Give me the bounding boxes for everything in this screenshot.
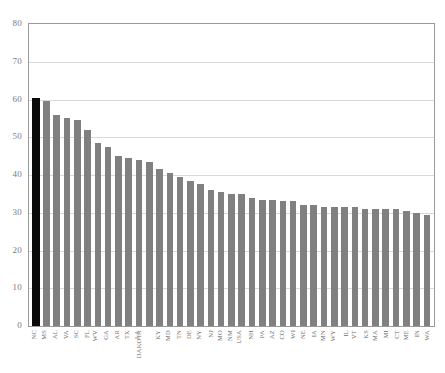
y-tick-label: 70 <box>13 56 22 66</box>
x-tick-label: WA <box>422 330 429 341</box>
bar-slot <box>216 24 226 326</box>
bar[interactable] <box>64 118 71 326</box>
x-tick-label: MO <box>216 330 223 341</box>
x-tick-label: TN <box>175 330 182 339</box>
bar[interactable] <box>74 120 81 326</box>
bar[interactable] <box>228 194 235 326</box>
bar[interactable] <box>424 215 431 326</box>
x-axis: NCMSALVASCFLWVGAARTXLADAKOTAKYMDTNDENYNJ… <box>28 328 435 373</box>
bar[interactable] <box>136 160 143 326</box>
bar-slot <box>247 24 257 326</box>
bar[interactable] <box>341 207 348 326</box>
x-tick-slot: NY <box>195 328 205 373</box>
x-tick-slot: SC <box>71 328 81 373</box>
bar[interactable] <box>352 207 359 326</box>
bar[interactable] <box>310 205 317 326</box>
bar[interactable] <box>331 207 338 326</box>
bar-slot <box>196 24 206 326</box>
bar-slot <box>154 24 164 326</box>
bar[interactable] <box>403 211 410 326</box>
bar[interactable] <box>280 201 287 326</box>
x-tick-label: AZ <box>268 330 275 339</box>
bar[interactable] <box>105 147 112 326</box>
bar-chart: 80706050403020100 NCMSALVASCFLWVGAARTXLA… <box>0 0 445 373</box>
x-tick-slot: IL <box>340 328 350 373</box>
y-tick-label: 60 <box>13 94 22 104</box>
bar[interactable] <box>156 169 163 326</box>
x-tick-label: SC <box>72 330 79 338</box>
bar[interactable] <box>321 207 328 326</box>
x-tick-slot: KS <box>361 328 371 373</box>
bar-slot <box>411 24 421 326</box>
x-tick-label: WY <box>329 330 336 341</box>
bar[interactable] <box>32 98 39 326</box>
x-tick-slot: TN <box>175 328 185 373</box>
bar[interactable] <box>249 198 256 326</box>
bar-slot <box>93 24 103 326</box>
bar-slot <box>206 24 216 326</box>
y-tick-label: 20 <box>13 245 22 255</box>
bar[interactable] <box>413 213 420 326</box>
x-tick-slot: ME <box>402 328 412 373</box>
bar[interactable] <box>146 162 153 326</box>
x-tick-label: NJ <box>207 330 214 338</box>
bar-slot <box>113 24 123 326</box>
bar[interactable] <box>218 192 225 326</box>
bar[interactable] <box>53 115 60 326</box>
x-tick-label: NY <box>196 330 203 340</box>
bar[interactable] <box>259 200 266 326</box>
bar-slot <box>360 24 370 326</box>
bar-slot <box>370 24 380 326</box>
bar[interactable] <box>362 209 369 326</box>
bar-slot <box>267 24 277 326</box>
bar-slot <box>257 24 267 326</box>
x-tick-label: WV <box>92 330 99 341</box>
bar[interactable] <box>382 209 389 326</box>
bar[interactable] <box>290 201 297 326</box>
bar-slot <box>144 24 154 326</box>
bar[interactable] <box>197 184 204 326</box>
x-tick-slot: MD <box>164 328 174 373</box>
x-tick-slot: MA <box>371 328 381 373</box>
bar[interactable] <box>187 181 194 326</box>
x-tick-slot: NH <box>247 328 257 373</box>
x-tick-label: CO <box>278 330 285 339</box>
bar-slot <box>82 24 92 326</box>
bar-slot <box>298 24 308 326</box>
x-tick-slot: TX <box>123 328 133 373</box>
bar[interactable] <box>95 143 102 326</box>
bar[interactable] <box>125 158 132 326</box>
bar[interactable] <box>393 209 400 326</box>
x-tick-label: MD <box>164 330 171 341</box>
x-tick-slot: NC <box>30 328 40 373</box>
bar[interactable] <box>115 156 122 326</box>
x-tick-label: MN <box>319 330 326 341</box>
x-tick-label: NM <box>226 330 233 341</box>
bar-slot <box>350 24 360 326</box>
bar-slot <box>422 24 432 326</box>
y-tick-label: 0 <box>17 320 22 330</box>
y-tick-label: 10 <box>13 282 22 292</box>
bar[interactable] <box>208 190 215 326</box>
x-tick-slot: WY <box>330 328 340 373</box>
bar[interactable] <box>238 194 245 326</box>
bar[interactable] <box>372 209 379 326</box>
x-tick-label: IN <box>414 330 421 337</box>
x-tick-label: NC <box>30 330 37 339</box>
bar[interactable] <box>84 130 91 326</box>
x-tick-slot: WV <box>92 328 102 373</box>
x-tick-label: ME <box>402 330 409 340</box>
bar[interactable] <box>167 173 174 326</box>
bar-slot <box>288 24 298 326</box>
bar[interactable] <box>177 177 184 326</box>
bar[interactable] <box>43 101 50 326</box>
x-tick-label: GA <box>103 330 110 340</box>
x-tick-slot: WA <box>422 328 432 373</box>
x-tick-label: VA <box>62 330 69 339</box>
bar-slot <box>278 24 288 326</box>
x-tick-slot: VA <box>61 328 71 373</box>
bar[interactable] <box>269 200 276 326</box>
x-tick-slot: MS <box>40 328 50 373</box>
bar-slot <box>124 24 134 326</box>
bar[interactable] <box>300 205 307 326</box>
